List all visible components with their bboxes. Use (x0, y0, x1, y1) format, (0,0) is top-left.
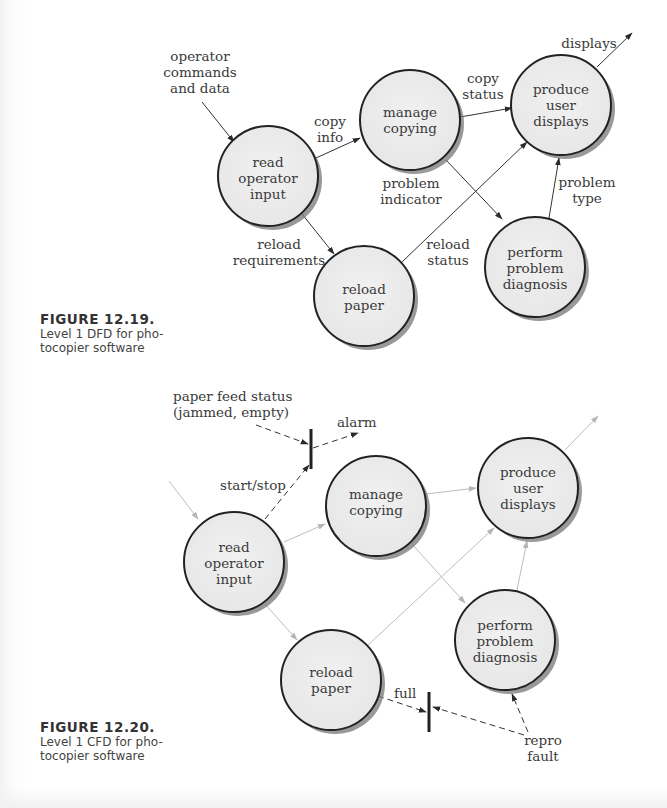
cfd-flow-diagnose-to-produce (517, 541, 527, 590)
figure-12-19-caption: FIGURE 12.19. Level 1 DFD for pho- tocop… (40, 312, 190, 355)
cfd-flow-manage-to-diagnose (411, 543, 465, 603)
dfd-label-problem-indicator: problemindicator (380, 175, 442, 207)
cfd-label-paper-feed-status: paper feed status(jammed, empty) (173, 388, 292, 420)
svg-text:reloadpaper: reloadpaper (309, 664, 353, 696)
svg-text:performproblemdiagnosis: performproblemdiagnosis (473, 617, 538, 665)
cfd-control-repro-fault-to-diagnose (512, 694, 528, 732)
caption-line: Level 1 DFD for pho- (40, 327, 164, 341)
dfd-process-produce-user-displays: produceuserdisplays (511, 55, 615, 159)
svg-text:reloadpaper: reloadpaper (342, 281, 386, 313)
dfd-label-reload-requirements: reloadrequirements (233, 236, 325, 268)
dfd-label-copy-status: copystatus (462, 70, 504, 102)
cfd-process-produce-user-displays: produceuserdisplays (478, 438, 582, 542)
cfd-flow-manage-to-produce (426, 488, 476, 494)
cfd-flow-displays-out (565, 416, 598, 450)
dfd-process-perform-problem-diagnosis: performproblemdiagnosis (485, 217, 589, 321)
dfd-label-displays: displays (561, 35, 617, 51)
svg-text:managecopying: managecopying (349, 486, 403, 518)
dfd-label-reload-status: reloadstatus (426, 236, 470, 268)
cfd-process-perform-problem-diagnosis: performproblemdiagnosis (455, 590, 559, 694)
figure-number: FIGURE 12.20. (40, 720, 190, 734)
cfd-flow-read-to-reload (265, 604, 297, 640)
dfd-label-problem-type: problemtype (559, 174, 616, 206)
cfd-label-full: full (394, 685, 416, 701)
cfd-process-read-operator-input: readoperatorinput (184, 512, 288, 616)
cfd-flow-input-arrow (169, 481, 198, 519)
flow-problem-type-arrow (549, 158, 559, 218)
caption-line: tocopier software (40, 749, 145, 763)
cfd-diagram: readoperatorinput managecopying produceu… (169, 388, 598, 764)
figure-number: FIGURE 12.19. (40, 312, 190, 326)
cfd-process-reload-paper: reloadpaper (281, 630, 385, 734)
cfd-control-repro-fault-to-bar (433, 707, 524, 735)
flow-problem-indicator-arrow (446, 160, 502, 219)
flow-reload-requirements-arrow (302, 214, 334, 254)
dfd-process-read-operator-input: readoperatorinput (218, 126, 322, 230)
dfd-label-operator-commands: operatorcommandsand data (163, 48, 237, 96)
cfd-label-repro-fault: reprofault (524, 732, 562, 764)
caption-line: Level 1 CFD for pho- (40, 735, 163, 749)
cfd-control-paper-feed-status-arrow (256, 425, 308, 444)
figure-12-20-caption: FIGURE 12.20. Level 1 CFD for pho- tocop… (40, 720, 190, 763)
cfd-process-manage-copying: managecopying (326, 456, 430, 560)
dfd-label-copy-info: copyinfo (314, 113, 346, 145)
flow-operator-commands-arrow (202, 102, 234, 142)
dfd-diagram: readoperatorinput managecopying produceu… (163, 33, 632, 350)
caption-line: tocopier software (40, 341, 145, 355)
cfd-label-start-stop: start/stop (220, 477, 286, 493)
svg-text:managecopying: managecopying (383, 104, 437, 136)
dfd-process-manage-copying: managecopying (360, 70, 464, 174)
cfd-label-alarm: alarm (337, 414, 377, 430)
svg-text:performproblemdiagnosis: performproblemdiagnosis (503, 244, 568, 292)
flow-copy-status-arrow (460, 108, 512, 117)
cfd-control-alarm-arrow (313, 433, 358, 448)
cfd-flow-read-to-manage (284, 524, 325, 542)
figures-canvas: readoperatorinput managecopying produceu… (0, 0, 667, 808)
